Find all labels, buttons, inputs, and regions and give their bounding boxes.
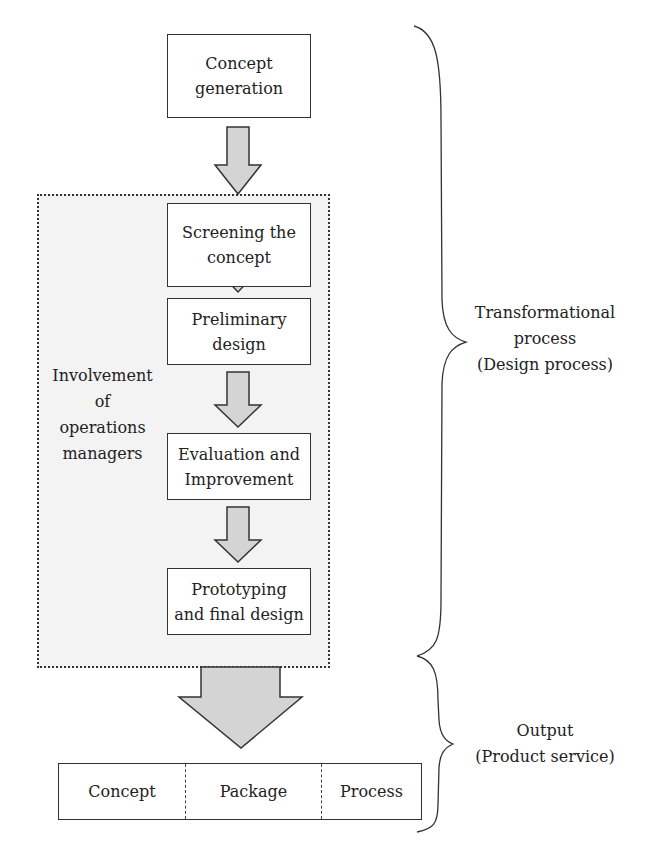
transformational-process-label: Transformational process (Design process…: [465, 300, 625, 378]
screening-box: Screening the concept: [167, 203, 311, 287]
output-process: Process: [321, 764, 421, 819]
down-arrow-icon: [215, 372, 261, 427]
evaluation-box: Evaluation and Improvement: [167, 433, 311, 500]
output-concept: Concept: [59, 764, 185, 819]
output-label: Output (Product service): [465, 718, 625, 770]
prototyping-box: Prototyping and final design: [167, 568, 311, 635]
transformational-brace: [414, 26, 466, 656]
preliminary-design-box: Preliminary design: [167, 298, 311, 365]
concept-generation-box: Concept generation: [167, 34, 311, 118]
output-bar: Concept Package Process: [58, 763, 422, 820]
involvement-label: Involvement of operations managers: [40, 363, 165, 467]
output-package: Package: [185, 764, 321, 819]
output-arrow-icon: [179, 667, 302, 748]
output-brace: [417, 656, 453, 832]
down-arrow-icon: [215, 127, 261, 194]
down-arrow-icon: [215, 507, 261, 562]
